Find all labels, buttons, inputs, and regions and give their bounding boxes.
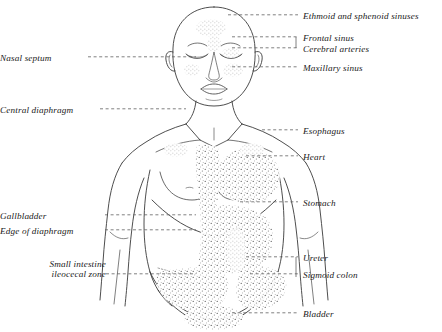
label-stomach: Stomach: [303, 198, 336, 208]
label-central-diaphragm: Central diaphragm: [0, 105, 14, 115]
zone-sigmoid-colon: [236, 266, 286, 311]
label-gallbladder: Gallbladder: [0, 211, 42, 221]
zone-cerebral-arteries: [222, 48, 240, 58]
label-cerebral-arteries: Cerebral arteries: [303, 44, 369, 54]
neck-outline: [186, 101, 242, 147]
zone-ethmoid-sphenoid: [207, 36, 221, 52]
zone-central-diaphragm: [164, 143, 188, 157]
label-small-intestine-ileocecal-zone: Small intestineileocecal zone: [0, 259, 106, 279]
label-edge-of-diaphragm: Edge of diaphragm: [0, 226, 14, 236]
stipple-zones: [157, 19, 287, 330]
zone-nasal-septum: [184, 64, 200, 76]
label-maxillary-sinus: Maxillary sinus: [303, 63, 363, 73]
label-bladder: Bladder: [303, 309, 334, 319]
label-esophagus: Esophagus: [303, 126, 345, 136]
label-small-intestine-line1: Small intestine: [0, 259, 106, 269]
zone-frontal-sinus: [196, 19, 226, 37]
zone-ureter: [227, 228, 245, 272]
label-ureter: Ureter: [303, 253, 328, 263]
zone-maxillary-sinus: [223, 63, 243, 77]
label-frontal-sinus: Frontal sinus: [303, 33, 354, 43]
zone-central-diaphragm-right: [240, 143, 264, 157]
zone-bladder: [184, 306, 244, 330]
label-nasal-septum: Nasal septum: [0, 53, 28, 63]
label-sigmoid-colon: Sigmoid colon: [303, 270, 358, 280]
label-heart: Heart: [303, 152, 325, 162]
label-ethmoid-and-sphenoid-sinuses: Ethmoid and sphenoid sinuses: [303, 11, 419, 21]
label-small-intestine-line2: ileocecal zone: [0, 269, 106, 279]
referred-pain-body-diagram: [0, 0, 442, 332]
